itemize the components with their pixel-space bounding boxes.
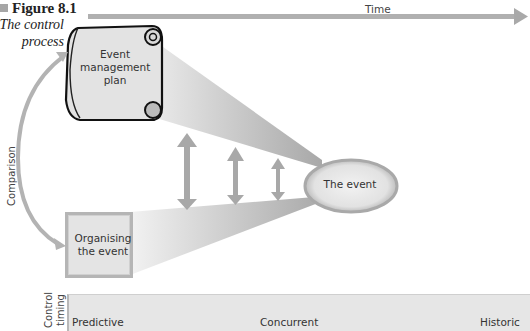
organising-label: Organising the event <box>70 232 136 258</box>
plan-label-line-1: Event <box>80 48 150 61</box>
organising-label-line-1: Organising <box>70 232 136 245</box>
plan-label: Event management plan <box>80 48 150 87</box>
organising-beam <box>130 196 326 275</box>
timing-historic: Historic <box>480 316 520 328</box>
timing-concurrent: Concurrent <box>260 316 318 328</box>
control-timing-label-line-1: Control <box>43 292 54 328</box>
plan-label-line-2: management <box>80 61 150 74</box>
time-label: Time <box>365 3 391 15</box>
time-arrow <box>88 8 528 25</box>
gap-arrow-2 <box>227 147 244 205</box>
comparison-arrow <box>18 52 68 250</box>
comparison-label: Comparison <box>6 146 17 206</box>
timing-predictive: Predictive <box>72 316 124 328</box>
event-label: The event <box>320 178 380 191</box>
gap-arrow-3 <box>271 158 285 201</box>
organising-label-line-2: the event <box>70 245 136 258</box>
plan-beam <box>156 42 322 168</box>
gap-arrow-1 <box>177 133 197 210</box>
control-timing-label-line-2: timing <box>55 294 66 326</box>
plan-label-line-3: plan <box>80 74 150 87</box>
